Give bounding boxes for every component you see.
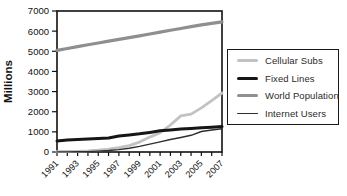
x-axis-tick-label: 1999 — [122, 158, 143, 179]
y-axis-tick-label: 5000 — [28, 46, 49, 57]
legend-label-internet-users: Internet Users — [265, 108, 326, 119]
x-axis-tick-label: 1993 — [60, 158, 81, 179]
x-axis-tick-label: 1997 — [101, 158, 122, 179]
y-axis-tick-label: 2000 — [28, 106, 49, 117]
y-axis-tick-label: 6000 — [28, 26, 49, 37]
x-axis-tick-label: 2001 — [142, 158, 163, 179]
internet-users-line-swatch — [237, 113, 258, 114]
x-axis-tick-label: 1991 — [39, 158, 60, 179]
y-axis-tick-label: 1000 — [28, 126, 49, 137]
legend-item-fixed-lines: Fixed Lines — [237, 70, 338, 88]
y-axis-tick-label: 7000 — [28, 5, 49, 16]
x-axis-tick-label: 2003 — [163, 158, 184, 179]
x-axis-tick-label: 2005 — [184, 158, 205, 179]
legend-label-fixed-lines: Fixed Lines — [265, 73, 315, 84]
y-axis-tick-label: 4000 — [28, 66, 49, 77]
x-axis-tick-label: 1995 — [80, 158, 101, 179]
series-line-cellular-subs — [57, 93, 222, 152]
legend-item-world-population: World Population — [237, 87, 338, 105]
y-axis-title: Millions — [2, 60, 14, 103]
series-line-world-population — [57, 22, 222, 50]
y-axis-tick-label: 0 — [44, 146, 49, 157]
y-axis-tick-label: 3000 — [28, 86, 49, 97]
line-chart: 0100020003000400050006000700019911993199… — [0, 0, 347, 196]
cellular-subs-line-swatch — [237, 59, 258, 62]
fixed-lines-line-swatch — [237, 77, 258, 80]
plot-frame — [57, 11, 222, 152]
chart-legend: Cellular Subs Fixed Lines World Populati… — [227, 49, 339, 125]
x-axis-tick-label: 2007 — [204, 158, 225, 179]
legend-item-cellular-subs: Cellular Subs — [237, 52, 338, 70]
legend-label-world-population: World Population — [265, 90, 339, 101]
world-population-line-swatch — [237, 94, 258, 97]
legend-item-internet-users: Internet Users — [237, 105, 338, 123]
legend-label-cellular-subs: Cellular Subs — [265, 55, 323, 66]
